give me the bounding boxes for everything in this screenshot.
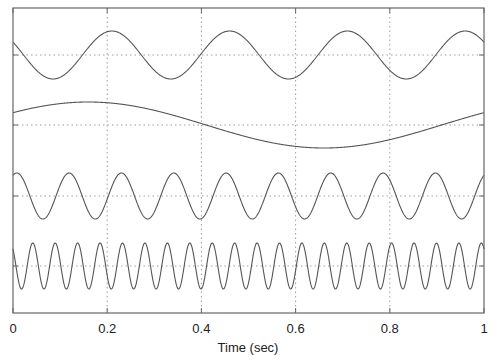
x-tick-label: 0 [9,321,16,336]
x-axis-label: Time (sec) [218,340,279,355]
x-tick-label: 1 [480,321,487,336]
x-tick-label: 0.4 [192,321,210,336]
x-tick-label: 0.8 [381,321,399,336]
chart: 00.20.40.60.81 Time (sec) [0,0,496,362]
signal-traces [13,31,484,289]
x-tick-label: 0.2 [98,321,116,336]
x-tick-label: 0.6 [287,321,305,336]
